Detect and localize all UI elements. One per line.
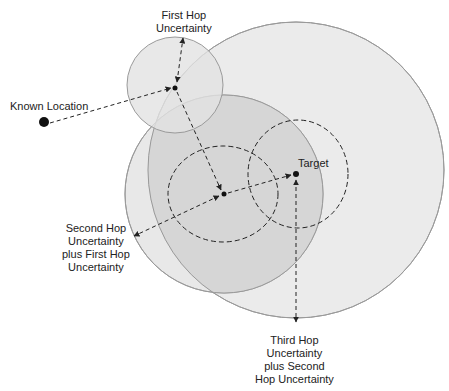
second-hop-line: plus First Hop [62,248,130,261]
target-text: Target [298,157,329,170]
third-hop-label: Third Hop Uncertainty plus Second Hop Un… [255,334,334,386]
known-location-text: Known Location [10,100,88,113]
first-hop-line: Uncertainty [156,22,212,35]
hop-uncertainty-diagram [0,0,449,391]
third-hop-line: plus Second [255,360,334,373]
first-hop-label: First Hop Uncertainty [156,9,212,35]
first-hop-dot [173,86,178,91]
known-location-label: Known Location [10,100,88,113]
third-hop-line: Third Hop [255,334,334,347]
first-hop-line: First Hop [156,9,212,22]
third-hop-line: Hop Uncertainty [255,373,334,386]
second-hop-line: Uncertainty [62,235,130,248]
second-hop-label: Second Hop Uncertainty plus First Hop Un… [62,222,130,274]
second-hop-line: Uncertainty [62,261,130,274]
first-hop-uncertainty-circle [127,37,223,133]
known-location-dot [39,117,49,127]
second-hop-dot [222,192,227,197]
target-dot [293,171,299,177]
second-hop-line: Second Hop [62,222,130,235]
third-hop-line: Uncertainty [255,347,334,360]
target-label: Target [298,157,329,170]
